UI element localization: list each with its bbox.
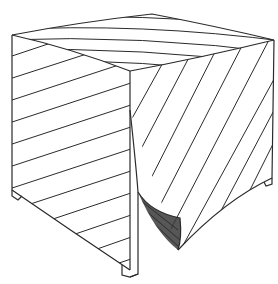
right-face	[120, 38, 278, 260]
draped-box-drawing	[0, 0, 278, 284]
